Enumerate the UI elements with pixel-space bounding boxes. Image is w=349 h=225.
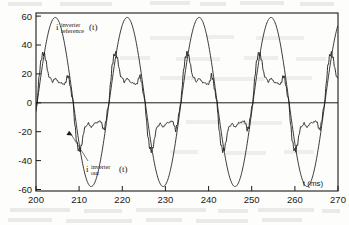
output-label-subscript: out [91,169,99,176]
x-tick-label: 260 [287,194,303,205]
leader-arrowhead-icon [66,131,72,135]
y-tick-label: 40 [21,39,32,50]
reference-label-base: i [56,22,59,32]
y-tick-label: -40 [18,155,32,166]
y-tick-label: 0 [27,97,32,108]
reference-label-suffix: (t) [89,22,98,32]
x-tick-label: 200 [28,194,44,205]
x-tick-label: 230 [157,194,173,205]
x-tick-label: 240 [201,194,217,205]
annotation-output-label: i inverter out (t) [66,131,127,176]
y-tick-label: -20 [18,126,32,137]
output-label-suffix: (t) [119,164,128,174]
x-axis-ticks [36,186,338,191]
series-reference-current-trace [36,17,338,186]
output-label-base: i [86,164,89,174]
x-tick-label: 210 [71,194,87,205]
x-tick-label: 250 [244,194,260,205]
leader-line [69,131,88,161]
y-tick-label: 60 [21,11,32,22]
x-tick-label: 220 [114,194,130,205]
annotation-reference-label: i inverter reference (t) [56,21,98,34]
series-output-current-trace [36,51,338,153]
waveform-figure: 60 40 20 0 -20 -40 -60 200 210 220 230 2… [0,0,349,225]
x-tick-label: 270 [330,194,346,205]
y-tick-label: 20 [21,68,32,79]
reference-label-subscript: reference [61,27,84,34]
x-axis-unit-label: t (ms) [303,179,324,188]
